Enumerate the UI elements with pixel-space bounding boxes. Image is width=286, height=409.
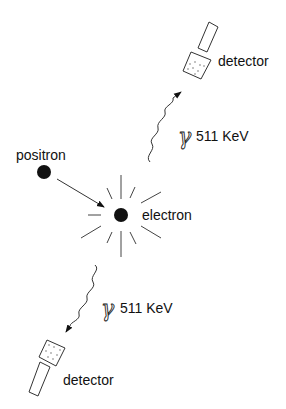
gamma-symbol-top: γ [178, 124, 192, 149]
energy-label-top: 511 KeV [196, 128, 249, 144]
gamma-symbol-bottom: γ [101, 296, 115, 321]
positron-label: positron [16, 147, 66, 163]
detector-icon-bottom [29, 340, 65, 396]
energy-label-bottom: 511 KeV [120, 300, 173, 316]
positron-dot-icon [37, 165, 51, 179]
annihilation-diagram: detector γ 511 KeV positron electron γ 5… [0, 0, 286, 409]
photon-wave-bottom [66, 265, 97, 332]
electron-dot-icon [114, 208, 128, 222]
photon-wave-top [148, 92, 181, 162]
detector-icon-top [183, 22, 218, 79]
electron-label: electron [142, 207, 192, 223]
positron-arrow [57, 179, 104, 207]
detector-label-bottom: detector [63, 372, 114, 388]
detector-label-top: detector [218, 53, 269, 69]
